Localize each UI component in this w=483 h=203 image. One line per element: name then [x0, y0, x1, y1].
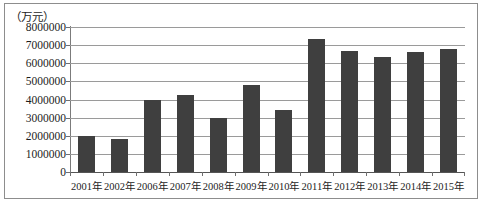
bar-slot: [136, 27, 169, 172]
x-axis-tick-marks: [70, 172, 465, 177]
y-axis-tick-label: 7000000: [26, 39, 66, 51]
bar: [308, 39, 325, 172]
x-axis-tick-mark: [70, 172, 71, 176]
bar-series: [70, 27, 465, 172]
x-axis-tick-cell: [333, 172, 366, 177]
x-axis-tick-cell: [366, 172, 399, 177]
x-axis-label: 2007年: [169, 178, 202, 196]
x-axis-label: 2006年: [136, 178, 169, 196]
x-axis-label: 2015年: [432, 178, 465, 196]
bar: [407, 52, 424, 172]
x-axis-tick-mark: [136, 172, 137, 176]
x-axis-label: 2014年: [399, 178, 432, 196]
bar-slot: [366, 27, 399, 172]
x-axis-tick-mark: [333, 172, 334, 176]
y-axis-tick-label: 4000000: [26, 94, 66, 106]
bar-slot: [432, 27, 465, 172]
x-axis-tick-cell: [399, 172, 432, 177]
x-axis-tick-mark: [235, 172, 236, 176]
x-axis-tick-cell: [70, 172, 103, 177]
bar-slot: [169, 27, 202, 172]
bar: [210, 118, 227, 172]
y-axis-tick-label: 8000000: [26, 21, 66, 33]
x-axis-tick-cell: [268, 172, 301, 177]
x-axis-tick-mark: [103, 172, 104, 176]
x-axis-label: 2013年: [366, 178, 399, 196]
bar: [243, 85, 260, 172]
y-axis-tick-labels: 8000000700000060000005000000400000030000…: [0, 0, 66, 203]
bar-slot: [202, 27, 235, 172]
x-axis-tick-mark: [268, 172, 269, 176]
y-axis-tick-label: 6000000: [26, 57, 66, 69]
bar-slot: [103, 27, 136, 172]
x-axis-tick-mark-end: [464, 172, 465, 176]
bar: [78, 136, 95, 172]
x-axis-tick-mark: [202, 172, 203, 176]
bar-slot: [268, 27, 301, 172]
x-axis-tick-cell: [169, 172, 202, 177]
x-axis-tick-cell: [136, 172, 169, 177]
bar: [341, 51, 358, 172]
y-axis-tick-label: 5000000: [26, 75, 66, 87]
bar: [111, 139, 128, 172]
y-axis-tick-label: 2000000: [26, 130, 66, 142]
x-axis-tick-mark: [366, 172, 367, 176]
bar-slot: [399, 27, 432, 172]
bar: [440, 49, 457, 172]
x-axis-labels: 2001年2002年2006年2007年2008年2009年2010年2011年…: [70, 178, 465, 196]
x-axis-tick-cell: [202, 172, 235, 177]
bar: [144, 100, 161, 172]
x-axis-label: 2010年: [268, 178, 301, 196]
x-axis-tick-cell: [300, 172, 333, 177]
x-axis-label: 2002年: [103, 178, 136, 196]
x-axis-label: 2008年: [202, 178, 235, 196]
x-axis-label: 2012年: [333, 178, 366, 196]
chart-figure: （万元） 80000007000000600000050000004000000…: [0, 0, 483, 203]
x-axis-tick-cell: [103, 172, 136, 177]
bar-slot: [333, 27, 366, 172]
bar-slot: [300, 27, 333, 172]
x-axis-label: 2009年: [235, 178, 268, 196]
x-axis-tick-cell: [432, 172, 465, 177]
x-axis-tick-mark: [432, 172, 433, 176]
bar-slot: [235, 27, 268, 172]
bar: [374, 57, 391, 172]
x-axis-label: 2011年: [300, 178, 333, 196]
y-axis-tick-label: 3000000: [26, 112, 66, 124]
x-axis-tick-mark: [169, 172, 170, 176]
bar: [275, 110, 292, 172]
x-axis-tick-cell: [235, 172, 268, 177]
y-axis-tick-label: 1000000: [26, 148, 66, 160]
x-axis-tick-mark: [399, 172, 400, 176]
bar-slot: [70, 27, 103, 172]
x-axis-label: 2001年: [70, 178, 103, 196]
bar: [177, 95, 194, 172]
x-axis-tick-mark: [300, 172, 301, 176]
